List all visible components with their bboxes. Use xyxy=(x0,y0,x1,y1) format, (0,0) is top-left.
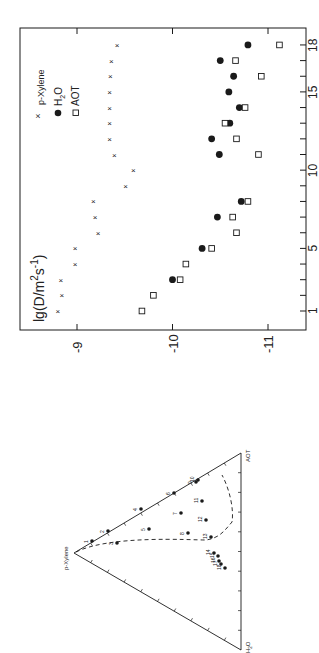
ternary-point-label: 4 xyxy=(132,508,138,511)
x-marker-icon: × xyxy=(91,197,96,206)
open-square-icon xyxy=(277,42,283,48)
filled-circle-icon xyxy=(169,276,176,283)
ternary-point xyxy=(216,554,220,558)
ternary-point-label: 3 xyxy=(108,542,114,545)
x-marker-icon: × xyxy=(73,244,78,253)
legend-label: AOT xyxy=(70,85,81,106)
x-marker-icon: × xyxy=(107,88,112,97)
open-square-icon xyxy=(222,120,228,126)
tick-mark xyxy=(107,570,109,573)
open-square-icon xyxy=(73,110,79,116)
ternary-point-label: 18 xyxy=(216,564,222,570)
ternary-ticks xyxy=(91,463,241,640)
ternary-point-label: 11 xyxy=(193,498,199,503)
svg-text:lg(D/m2s-1): lg(D/m2s-1) xyxy=(29,255,47,322)
tick-label: -9 xyxy=(70,341,85,353)
legend: × p-Xylene H2O AOT xyxy=(33,69,81,118)
x-marker-icon: × xyxy=(108,72,113,81)
ternary-point-label: 10 xyxy=(189,476,195,482)
tick-label: -10 xyxy=(166,334,181,353)
vertex-label-h2o: H2O xyxy=(245,641,253,653)
ternary-point xyxy=(179,511,183,515)
ternary-diagram: 123456789101112131415161718 p-Xylene AOT… xyxy=(63,449,253,653)
x-marker-icon: × xyxy=(33,113,43,118)
ternary-point xyxy=(90,539,94,543)
ternary-point xyxy=(186,531,190,535)
series-aot xyxy=(139,42,282,314)
open-square-icon xyxy=(234,136,240,142)
vertex-label-aot: AOT xyxy=(245,449,251,462)
legend-item-h2o: H2O xyxy=(53,87,66,116)
x-marker-icon: × xyxy=(107,135,112,144)
tick-label: 5 xyxy=(306,244,319,251)
ternary-points: 123456789101112131415161718 xyxy=(83,476,227,570)
x-marker-icon: × xyxy=(112,151,117,160)
tick-mark xyxy=(91,543,93,546)
x-marker-icon: × xyxy=(59,291,64,300)
x-marker-icon: × xyxy=(115,41,120,50)
tick-mark xyxy=(174,609,176,612)
filled-circle-icon xyxy=(225,89,232,96)
ternary-point-label: 13 xyxy=(202,533,208,539)
open-square-icon xyxy=(245,199,251,205)
open-square-icon xyxy=(256,152,262,158)
legend-label: p-Xylene xyxy=(36,69,46,105)
open-square-icon xyxy=(233,58,239,64)
open-square-icon xyxy=(151,293,157,299)
tick-mark xyxy=(158,503,160,506)
tick-mark xyxy=(124,523,126,526)
ternary-point xyxy=(196,478,200,482)
ternary-point xyxy=(106,529,110,533)
x-marker-icon: × xyxy=(123,182,128,191)
tick-label: 1 xyxy=(306,307,319,314)
x-marker-icon: × xyxy=(107,104,112,113)
tick-label: 10 xyxy=(306,163,319,177)
tick-label: 18 xyxy=(306,38,319,52)
x-marker-icon: × xyxy=(109,57,114,66)
tick-mark xyxy=(141,589,143,592)
tick-mark xyxy=(91,560,93,563)
sample-axis-ticks: 15101518 xyxy=(300,38,319,314)
tick-mark xyxy=(191,618,193,621)
tick-mark xyxy=(107,533,109,536)
filled-circle-icon xyxy=(230,73,237,80)
open-square-icon xyxy=(177,277,183,283)
filled-circle-icon xyxy=(216,151,223,158)
x-marker-icon: × xyxy=(131,166,136,175)
tick-mark xyxy=(224,638,226,641)
ternary-point xyxy=(115,541,119,545)
ternary-point xyxy=(209,535,213,539)
scatter-plot: -9-10-11 15101518 ×××××××××××××××××× lg(… xyxy=(20,28,319,353)
ternary-point xyxy=(172,491,176,495)
filled-circle-icon xyxy=(217,57,224,64)
tick-label: -11 xyxy=(261,335,276,353)
ternary-point xyxy=(204,518,208,522)
filled-circle-icon xyxy=(245,42,252,49)
x-marker-icon: × xyxy=(93,213,98,222)
open-square-icon xyxy=(183,261,189,267)
open-square-icon xyxy=(230,214,236,220)
ternary-point xyxy=(200,499,204,503)
x-marker-icon: × xyxy=(73,260,78,269)
ternary-point-label: 8 xyxy=(179,532,185,535)
vertex-label-p-xylene: p-Xylene xyxy=(63,546,69,570)
tick-mark xyxy=(158,599,160,602)
ternary-point-label: 2 xyxy=(99,530,105,533)
x-marker-icon: × xyxy=(96,229,101,238)
tick-mark xyxy=(141,513,143,516)
ternary-point xyxy=(147,527,151,531)
open-square-icon xyxy=(259,73,265,79)
open-square-icon xyxy=(242,105,248,111)
open-square-icon xyxy=(139,308,145,314)
tick-label: 15 xyxy=(306,85,319,99)
data-series: ×××××××××××××××××× xyxy=(56,41,283,316)
legend-item-aot: AOT xyxy=(70,85,81,115)
ternary-point-label: 6 xyxy=(165,492,171,495)
ternary-point-label: 7 xyxy=(172,512,178,515)
filled-circle-icon xyxy=(208,135,215,142)
ternary-point xyxy=(139,507,143,511)
tick-mark xyxy=(208,473,210,476)
filled-circle-icon xyxy=(238,198,245,205)
legend-item-p-xylene: × p-Xylene xyxy=(33,69,46,118)
x-marker-icon: × xyxy=(107,119,112,128)
